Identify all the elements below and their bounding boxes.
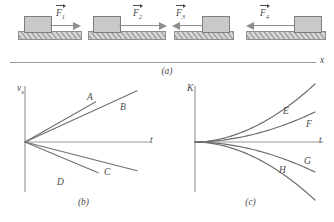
curve-label-e: E (283, 106, 289, 116)
curve-label-b: B (120, 102, 126, 112)
curve-label-g: G (304, 156, 311, 166)
force-arrow-shaft-1 (50, 25, 73, 27)
force-arrow-head-2 (159, 22, 167, 30)
force-arrow-shaft-3 (180, 25, 202, 27)
vector-bar-icon-4 (260, 5, 269, 6)
panel-a-force-diagrams: F1 F2 F3 (0, 0, 334, 80)
force-arrow-head-4 (246, 22, 254, 30)
force-label-1: F1 (56, 8, 65, 20)
vector-bar-icon-1 (56, 5, 65, 6)
block-4 (294, 16, 322, 33)
curve-label-c: C (104, 167, 110, 177)
vector-bar-icon-3 (176, 5, 185, 6)
panel-b-velocity-time-graph: vx t A B C D (b) (0, 80, 167, 222)
x-axis-line (10, 62, 316, 63)
physics-figure: F1 F2 F3 (0, 0, 334, 222)
curve-label-a: A (87, 92, 93, 102)
x-axis-label-t-b: t (150, 135, 153, 145)
block-1 (24, 16, 52, 33)
block-2 (93, 16, 121, 33)
y-axis-label-vx: vx (17, 83, 24, 95)
y-axis-label-sub: x (21, 88, 24, 95)
block-group-2: F2 (88, 0, 170, 46)
curve-label-d: D (57, 177, 64, 187)
block-group-4: F4 (246, 0, 332, 46)
force-arrow-shaft-2 (119, 25, 159, 27)
panel-b-caption: (b) (0, 197, 167, 207)
curve-label-f: F (306, 119, 312, 129)
force-label-3: F3 (176, 8, 185, 20)
panel-a-caption: (a) (0, 66, 334, 76)
block-group-3: F3 (172, 0, 244, 46)
panel-c-kinetic-energy-time-graph: K t E F G H (c) (167, 80, 334, 222)
x-axis-label-t-c: t (319, 135, 322, 145)
force-subscript-2: 2 (139, 13, 142, 20)
ground-hatch-line (81, 31, 82, 40)
vector-bar-icon-2 (133, 5, 142, 6)
block-group-1: F1 (14, 0, 84, 46)
force-arrow-head-3 (172, 22, 180, 30)
force-arrow-head-1 (73, 22, 81, 30)
curve-label-h: H (279, 165, 286, 175)
force-label-4: F4 (260, 8, 269, 20)
force-label-2: F2 (133, 8, 142, 20)
force-arrow-shaft-4 (254, 25, 294, 27)
force-subscript-1: 1 (62, 13, 65, 20)
block-3 (202, 16, 230, 33)
force-subscript-3: 3 (182, 13, 185, 20)
panel-c-caption: (c) (167, 197, 334, 207)
force-subscript-4: 4 (266, 13, 269, 20)
y-axis-label-k: K (187, 83, 193, 93)
x-axis-label: x (320, 55, 324, 65)
